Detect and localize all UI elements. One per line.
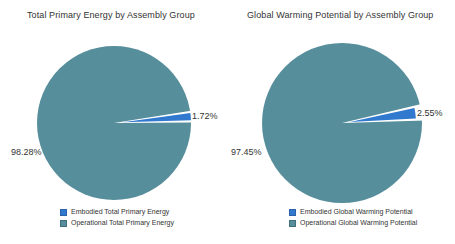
legend-swatch-embodied [289, 209, 296, 216]
legend-swatch-operational [289, 220, 296, 227]
legend-item: Operational Global Warming Potential [289, 219, 417, 227]
chart-title: Global Warming Potential by Assembly Gro… [247, 10, 433, 21]
chart-title: Total Primary Energy by Assembly Group [27, 10, 195, 21]
legend-item: Embodied Total Primary Energy [60, 208, 174, 216]
legend: Embodied Total Primary Energy Operationa… [60, 208, 174, 230]
operational-slice-label: 97.45% [231, 147, 262, 158]
operational-slice-label: 98.28% [11, 147, 42, 158]
legend-label: Embodied Total Primary Energy [71, 208, 169, 216]
legend-swatch-operational [60, 220, 67, 227]
embodied-slice-label: 2.55% [417, 108, 443, 119]
pie-chart-total-primary-energy: Total Primary Energy by Assembly Group 1… [0, 0, 227, 244]
legend: Embodied Global Warming Potential Operat… [289, 208, 417, 230]
pie-graphic [30, 38, 210, 210]
legend-item: Operational Total Primary Energy [60, 219, 174, 227]
legend-label: Operational Total Primary Energy [71, 219, 174, 227]
pie-chart-global-warming-potential: Global Warming Potential by Assembly Gro… [227, 0, 454, 244]
legend-label: Operational Global Warming Potential [300, 219, 417, 227]
pie-graphic [252, 38, 432, 210]
embodied-slice-label: 1.72% [192, 111, 218, 122]
legend-swatch-embodied [60, 209, 67, 216]
legend-label: Embodied Global Warming Potential [300, 208, 413, 216]
report-page: Total Primary Energy by Assembly Group 1… [0, 0, 455, 244]
legend-item: Embodied Global Warming Potential [289, 208, 417, 216]
